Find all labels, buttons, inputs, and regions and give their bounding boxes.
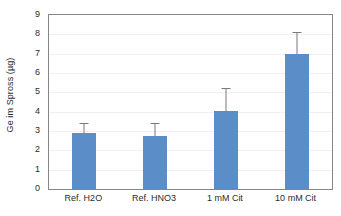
- y-axis-title-text: Ge im Spross (µg): [5, 58, 15, 133]
- x-axis-tick-label: Ref. H2O: [65, 193, 103, 204]
- error-bar-stem: [155, 123, 156, 136]
- bar: [285, 54, 309, 189]
- x-axis-tick-labels: Ref. H2ORef. HNO31 mM Cit10 mM Cit: [48, 193, 331, 213]
- plot-area: [48, 14, 333, 190]
- y-axis-tick-label: 3: [35, 126, 40, 135]
- error-bar-stem: [84, 123, 85, 133]
- error-bar-cap: [151, 123, 160, 124]
- bar-group: [261, 15, 332, 189]
- bar-chart: Ge im Spross (µg) 0123456789 Ref. H2ORef…: [0, 0, 341, 216]
- bar-group: [120, 15, 191, 189]
- x-axis-tick-label: 10 mM Cit: [275, 193, 316, 204]
- x-axis-tick-label: 1 mM Cit: [207, 193, 243, 204]
- y-axis-tick-label: 5: [35, 87, 40, 96]
- y-axis-tick-label: 7: [35, 48, 40, 57]
- y-axis-tick-labels: 0123456789: [22, 0, 44, 195]
- error-bar-cap: [221, 88, 230, 89]
- bar: [72, 133, 96, 189]
- bar-group: [191, 15, 262, 189]
- y-axis-tick-label: 6: [35, 68, 40, 77]
- bar-group: [49, 15, 120, 189]
- error-bar-stem: [225, 88, 226, 110]
- error-bar-cap: [80, 123, 89, 124]
- y-axis-tick-label: 4: [35, 106, 40, 115]
- y-axis-tick-label: 2: [35, 145, 40, 154]
- error-bar-cap: [292, 32, 301, 33]
- bars-layer: [49, 15, 332, 189]
- y-axis-tick-label: 9: [35, 10, 40, 19]
- x-axis-tick-label: Ref. HNO3: [132, 193, 176, 204]
- bar: [214, 111, 238, 189]
- y-axis-tick-label: 0: [35, 184, 40, 193]
- y-axis-title: Ge im Spross (µg): [0, 0, 20, 190]
- error-bar-stem: [296, 32, 297, 53]
- y-axis-tick-label: 1: [35, 164, 40, 173]
- bar: [143, 136, 167, 189]
- y-axis-tick-label: 8: [35, 29, 40, 38]
